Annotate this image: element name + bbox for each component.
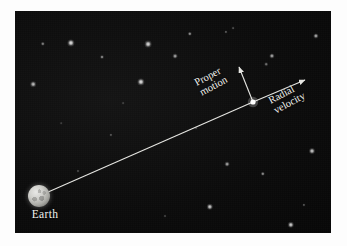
star-marker-glow — [248, 97, 258, 107]
proper-motion-vector — [239, 67, 253, 102]
radial-velocity-vector — [253, 80, 305, 102]
night-sky-panel: Earth Proper motion Radial velocity — [15, 11, 331, 233]
earth-globe — [28, 185, 50, 207]
stellar-motion-diagram: Earth Proper motion Radial velocity — [0, 0, 347, 246]
line-of-sight-vector — [39, 102, 253, 196]
velocity-vector-overlay — [15, 11, 331, 233]
